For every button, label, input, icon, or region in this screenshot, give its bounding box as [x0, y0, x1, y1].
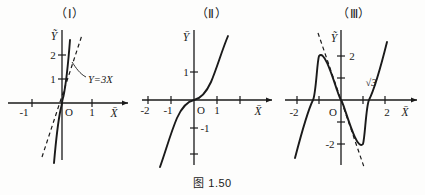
x-axis-arrow — [122, 101, 128, 106]
y-axis-label: Ỹ — [51, 29, 59, 42]
x-tick-label-1: 1 — [214, 104, 220, 116]
x-tick-label-minus-1: -1 — [163, 104, 172, 116]
y-tick-label-minus-1: -1 — [200, 122, 209, 134]
x-axis-label: X̄ — [400, 106, 409, 118]
x-axis-arrow — [411, 98, 417, 103]
x-tick-label-2: 2 — [384, 106, 390, 118]
figure-root: （Ⅰ） -1 1 1 2 O X̄ Ỹ Y — [0, 0, 425, 195]
tangent-line-label: Y=3X — [88, 74, 113, 85]
y-axis-label: Ỹ — [331, 31, 339, 44]
y-axis-label: Ȳ — [183, 31, 191, 43]
y-tick-label-2: 2 — [349, 50, 355, 62]
x-axis-label: X̄ — [109, 107, 118, 119]
panel-2: （Ⅱ） -2 -1 1 1 -1 O X̄ Ȳ — [140, 0, 283, 172]
y-tick-label-1: 1 — [183, 66, 189, 78]
x-tick-label-minus-2: -2 — [289, 106, 298, 118]
figure-caption: 图 1.50 — [0, 174, 425, 190]
x-tick-label-minus-2: -2 — [140, 104, 149, 116]
origin-label: O — [197, 104, 205, 116]
x-tick-label-1: 1 — [89, 106, 95, 118]
y-tick-label-2: 2 — [50, 49, 56, 61]
annotation-leader-line — [72, 62, 86, 77]
x-axis-label: X̄ — [253, 105, 262, 117]
y-tick-label-minus-2: -2 — [325, 138, 334, 150]
origin-label: O — [329, 106, 337, 118]
y-tick-label-1: 1 — [50, 73, 56, 85]
panel-3-plot: -2 2 2 -2 O X̄ Ỹ √3 — [283, 0, 425, 172]
panel-2-plot: -2 -1 1 1 -1 O X̄ Ȳ — [140, 0, 283, 172]
x-tick-label-minus-1: -1 — [19, 106, 28, 118]
panel-1-plot: -1 1 1 2 O X̄ Ỹ Y=3X — [0, 0, 140, 172]
panel-3: （Ⅲ） -2 2 2 -2 O X̄ Ỹ √3 — [283, 0, 425, 172]
origin-label: O — [65, 106, 73, 118]
panel-1: （Ⅰ） -1 1 1 2 O X̄ Ỹ Y — [0, 0, 140, 172]
x-axis-arrow — [266, 98, 272, 103]
